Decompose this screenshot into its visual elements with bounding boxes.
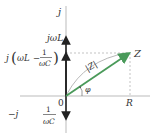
phase-angle-arc — [80, 87, 82, 96]
net-reactance-label: j ( ωL − 1 ωC ) — [4, 48, 59, 68]
jwL-label: jωL — [45, 33, 63, 43]
capacitive-reactance-label: −j 1 ωC — [8, 105, 56, 126]
phi-label: φ — [85, 85, 91, 94]
R-label: R — [125, 98, 133, 108]
open-paren: ( — [11, 49, 17, 67]
numerator-one: 1 — [42, 48, 47, 57]
origin-label: 0 — [58, 98, 64, 108]
impedance-vector — [66, 54, 128, 96]
close-paren: ) — [53, 49, 59, 67]
j-prefix: j — [4, 53, 9, 63]
neg-j-text: −j — [8, 109, 19, 119]
absZ-label: |Z| — [84, 59, 100, 74]
wL-text: ωL — [17, 53, 30, 63]
impedance-diagram: j jωL j ( ωL − 1 ωC ) −j 1 ωC 0 Z |Z| φ … — [0, 0, 158, 139]
cap-numerator-one: 1 — [46, 105, 51, 114]
imaginary-axis-label: j — [56, 6, 61, 17]
magnitude-arc — [67, 53, 127, 94]
cap-denominator-wC: ωC — [43, 117, 55, 126]
denominator-wC: ωC — [39, 59, 51, 68]
Z-label: Z — [133, 48, 142, 59]
